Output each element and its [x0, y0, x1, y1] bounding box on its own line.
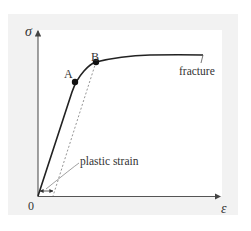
origin-label: 0	[28, 200, 34, 212]
point-a-label: A	[64, 68, 73, 80]
plastic-strain-leader	[46, 163, 79, 189]
point-b-label: B	[91, 51, 99, 63]
fracture-tick	[201, 55, 203, 63]
sigma-axis-label: σ	[25, 25, 32, 39]
plastic-strain-label: plastic strain	[80, 156, 138, 168]
stress-strain-plot	[0, 0, 251, 231]
fracture-label: fracture	[179, 66, 215, 78]
epsilon-axis-label: ε	[221, 202, 227, 216]
